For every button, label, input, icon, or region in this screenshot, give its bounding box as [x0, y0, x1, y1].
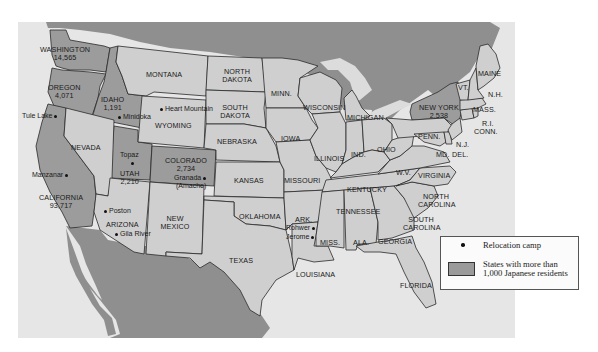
label-mississippi: MISS. — [320, 239, 340, 247]
label-virginia: VIRGINIA — [418, 172, 450, 180]
highlighted-state-swatch-icon — [448, 262, 475, 276]
camp-dot-icon — [118, 116, 121, 119]
legend-label-camp: Relocation camp — [483, 241, 541, 250]
label-georgia: GEORGIA — [378, 238, 412, 246]
label-pennsylvania: PENN. — [418, 133, 440, 141]
label-wyoming: WYOMING — [155, 122, 192, 130]
camp-dot-icon — [65, 174, 68, 177]
label-montana: MONTANA — [146, 71, 182, 79]
label-ohio: OHIO — [377, 146, 396, 154]
label-rhode-island: R.I. — [482, 120, 494, 128]
camp-granada: Granada(Amache) — [174, 174, 208, 190]
camp-heart-mountain: Heart Mountain — [158, 105, 213, 113]
label-wisconsin: WISCONSIN — [303, 104, 345, 112]
label-florida: FLORIDA — [400, 282, 432, 290]
label-south-carolina: SOUTH CAROLINA — [403, 216, 439, 232]
label-kentucky: KENTUCKY — [347, 186, 387, 194]
camp-dot-icon — [311, 236, 314, 239]
label-texas: TEXAS — [229, 257, 253, 265]
label-louisiana: LOUISIANA — [296, 271, 335, 279]
label-north-carolina: NORTH CAROLINA — [418, 193, 454, 209]
camp-manzanar: Manzanar — [32, 171, 70, 179]
label-north-dakota: NORTH DAKOTA — [221, 68, 253, 84]
label-maine: MAINE — [478, 70, 501, 78]
camp-jerome: Jerome — [286, 233, 316, 241]
label-new-york: NEW YORK2,538 — [419, 104, 459, 120]
camp-gila-river: Gila River — [113, 230, 151, 238]
legend-label-states: States with more than1,000 Japanese resi… — [483, 260, 568, 278]
label-colorado: COLORADO2,734 — [165, 157, 207, 173]
label-vermont: VT. — [458, 84, 469, 92]
label-new-jersey: N.J. — [456, 141, 469, 149]
label-illinois: ILLINOIS — [314, 155, 344, 163]
label-alabama: ALA. — [353, 239, 369, 247]
camp-dot-icon — [312, 227, 315, 230]
label-new-hampshire: N.H. — [488, 91, 503, 99]
label-washington: WASHINGTON14,565 — [40, 46, 90, 62]
label-iowa: IOWA — [281, 135, 300, 143]
camp-rohwer: Rohwer — [286, 224, 317, 232]
label-minnesota: MINN. — [271, 90, 292, 98]
label-maryland: MD. — [436, 151, 449, 159]
camp-tule-lake: Tule Lake — [22, 112, 59, 120]
camp-dot-icon — [104, 210, 107, 213]
label-nevada: NEVADA — [71, 144, 101, 152]
label-missouri: MISSOURI — [284, 177, 320, 185]
label-delaware: DEL. — [452, 151, 468, 159]
label-arkansas: ARK. — [295, 216, 312, 224]
camp-dot-icon — [54, 115, 57, 118]
map-legend: Relocation camp States with more than1,0… — [440, 236, 579, 290]
label-idaho: IDAHO1,191 — [101, 96, 124, 112]
label-new-mexico: NEW MEXICO — [160, 215, 190, 231]
label-nebraska: NEBRASKA — [217, 138, 257, 146]
label-utah: UTAH2,210 — [120, 170, 139, 186]
camp-topaz: Topaz — [120, 151, 139, 167]
camp-poston: Poston — [102, 207, 131, 215]
label-tennessee: TENNESSEE — [336, 208, 380, 216]
label-kansas: KANSAS — [234, 177, 264, 185]
label-oklahoma: OKLAHOMA — [239, 213, 281, 221]
label-connecticut: CONN. — [474, 128, 498, 136]
camp-dot-icon — [160, 108, 163, 111]
relocation-camp-dot-icon — [461, 243, 465, 247]
label-oregon: OREGON4,071 — [48, 84, 81, 100]
camp-minidoka: Minidoka — [116, 113, 151, 121]
label-west-virginia: W.V. — [396, 169, 411, 177]
label-california: CALIFORNIA93,717 — [39, 194, 83, 210]
camp-dot-icon — [203, 177, 206, 180]
camp-dot-icon — [131, 162, 134, 165]
label-massachusetts: MASS. — [473, 106, 496, 114]
label-indiana: IND. — [351, 151, 366, 159]
label-south-dakota: SOUTH DAKOTA — [219, 104, 251, 120]
label-arizona: ARIZONA — [106, 221, 139, 229]
camp-dot-icon — [115, 233, 118, 236]
label-michigan: MICHIGAN — [347, 114, 384, 122]
